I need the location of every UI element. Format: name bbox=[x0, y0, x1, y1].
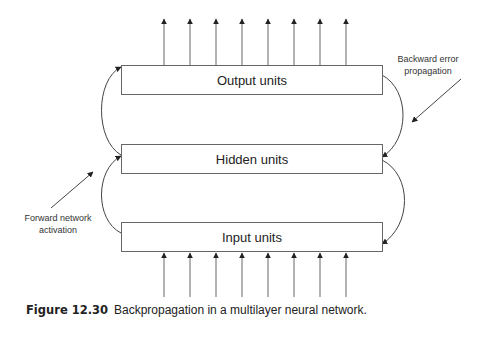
forward-curves bbox=[102, 67, 122, 233]
figure-caption: Figure 12.30Backpropagation in a multila… bbox=[26, 303, 374, 317]
figure-number: Figure 12.30 bbox=[26, 303, 114, 317]
input-units-label: Input units bbox=[222, 230, 282, 245]
output-units-label: Output units bbox=[217, 73, 287, 88]
input-units-box: Input units bbox=[121, 222, 383, 252]
backward-curves bbox=[382, 75, 405, 244]
caption-text: Backpropagation in a multilayer neural n… bbox=[114, 303, 374, 317]
backward-line-1: Backward error bbox=[368, 53, 488, 65]
forward-network-activation: Forward network activation bbox=[22, 212, 94, 236]
hidden-units-label: Hidden units bbox=[216, 152, 288, 167]
output-units-box: Output units bbox=[121, 65, 383, 95]
backward-line-2: propagation bbox=[368, 65, 488, 77]
backward-pointer bbox=[412, 79, 461, 122]
output-arrows bbox=[164, 19, 346, 65]
input-arrows bbox=[164, 253, 346, 297]
forward-line-2: activation bbox=[22, 224, 94, 236]
hidden-units-box: Hidden units bbox=[121, 144, 383, 174]
forward-pointer bbox=[51, 172, 93, 208]
backward-error-propagation: Backward error propagation bbox=[368, 53, 488, 77]
forward-line-1: Forward network bbox=[22, 212, 94, 224]
